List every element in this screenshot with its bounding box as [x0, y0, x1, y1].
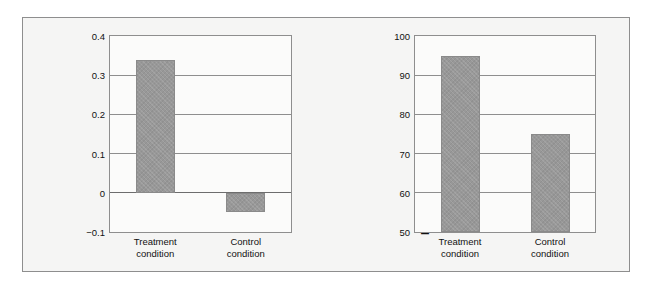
y-axis-tick-label: 70 — [399, 148, 410, 159]
figure-canvas: Change in grade-point average 0.40.30.20… — [0, 0, 652, 290]
x-axis-tick-label: Treatmentcondition — [415, 236, 505, 259]
plot-area: 0.40.30.20.10−0.1TreatmentconditionContr… — [109, 35, 292, 233]
x-axis-tick-label-line: Control — [201, 236, 291, 248]
y-axis-tick-label: 100 — [394, 31, 410, 42]
y-axis-tick-label: 0.3 — [92, 70, 105, 81]
y-axis-tick-label: −0.1 — [86, 227, 105, 238]
y-axis-tick-label: 0 — [100, 187, 105, 198]
bar — [441, 56, 480, 232]
x-axis-tick-label-line: condition — [110, 248, 200, 260]
y-axis-tick-label: 80 — [399, 109, 410, 120]
y-axis-tick-label: 60 — [399, 187, 410, 198]
bar — [136, 60, 175, 193]
x-axis-tick-label: Controlcondition — [505, 236, 595, 259]
x-axis-tick-label-line: condition — [201, 248, 291, 260]
chart-percentage-remaining: Percentage remaining in university 10090… — [327, 18, 631, 273]
x-axis-tick-label-line: condition — [505, 248, 595, 260]
y-axis-tick-label: 90 — [399, 70, 410, 81]
y-axis-tick-label: 0.2 — [92, 109, 105, 120]
x-axis-tick-label-line: Treatment — [110, 236, 200, 248]
plot-area: 1009080706050TreatmentconditionControlco… — [414, 35, 596, 233]
chart-change-in-gpa: Change in grade-point average 0.40.30.20… — [23, 18, 327, 273]
y-axis-tick-label: 0.1 — [92, 148, 105, 159]
y-axis-tick-label: 50 — [399, 227, 410, 238]
bar — [531, 134, 570, 232]
x-axis-tick-label-line: condition — [415, 248, 505, 260]
x-axis-tick-label: Treatmentcondition — [110, 236, 200, 259]
figure-panel: Change in grade-point average 0.40.30.20… — [22, 17, 630, 272]
y-axis-tick-label: 0.4 — [92, 31, 105, 42]
x-axis-tick-label: Controlcondition — [201, 236, 291, 259]
x-axis-tick-label-line: Control — [505, 236, 595, 248]
x-axis-tick-label-line: Treatment — [415, 236, 505, 248]
bar — [226, 193, 265, 213]
